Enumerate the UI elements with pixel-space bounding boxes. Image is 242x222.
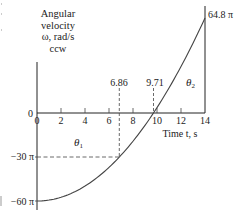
t1-label: 6.86	[110, 77, 128, 88]
x-tick-labels: 02468101214	[35, 115, 211, 126]
y-tick-label-0: 0	[28, 108, 33, 119]
y-tick-label-minus-30pi: −30 π	[11, 151, 34, 162]
x-tick-label: 14	[200, 115, 210, 126]
x-tick-label: 4	[83, 115, 88, 126]
x-tick-label: 12	[176, 115, 186, 126]
angular-velocity-curve	[37, 18, 205, 201]
peak-label: 64.8 π	[208, 9, 233, 20]
x-tick-label: 0	[35, 115, 40, 126]
theta2-label: θ2	[186, 76, 195, 90]
x-tick-label: 2	[59, 115, 64, 126]
x-axis-label: Time t, s	[163, 128, 198, 139]
x-tick-label: 10	[152, 115, 162, 126]
y-tick-label-minus-60pi: −60 π	[11, 196, 34, 207]
theta1-label: θ1	[74, 136, 83, 150]
x-ticks	[61, 108, 181, 113]
edge-marks	[1, 4, 2, 206]
chart: 02468101214 0 −30 π −60 π 64.8 π 6.86 9.…	[0, 0, 242, 222]
x-tick-label: 8	[131, 115, 136, 126]
t2-label: 9.71	[146, 77, 164, 88]
x-tick-label: 6	[107, 115, 112, 126]
